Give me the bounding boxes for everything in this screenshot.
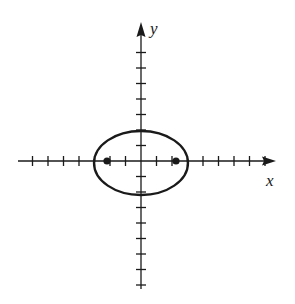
x-axis-arrow-icon bbox=[262, 157, 276, 166]
diagram-canvas: y x bbox=[0, 0, 295, 304]
y-axis bbox=[136, 30, 146, 289]
y-axis-arrow-icon bbox=[137, 22, 146, 37]
left-focus-point bbox=[103, 157, 110, 164]
right-focus-point bbox=[172, 157, 179, 164]
ellipse-diagram: y x bbox=[0, 0, 295, 304]
x-axis bbox=[18, 156, 268, 166]
y-axis-label: y bbox=[148, 19, 158, 38]
x-axis-label: x bbox=[265, 171, 274, 190]
